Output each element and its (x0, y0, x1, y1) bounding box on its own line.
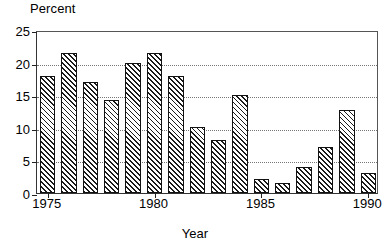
bar-1984 (232, 95, 247, 193)
bar-1988 (318, 147, 333, 193)
plot-area (36, 31, 378, 194)
x-tick-label-1980: 1980 (124, 196, 184, 211)
y-axis-tick-labels: 0510152025 (0, 31, 30, 194)
x-axis-tick-labels: 1975198019851990 (36, 196, 378, 216)
x-tick-label-1990: 1990 (337, 196, 390, 211)
y-tick-label-25: 25 (0, 25, 30, 38)
bar-1981 (168, 76, 183, 193)
y-tick-label-20: 20 (0, 57, 30, 70)
bar-1976 (61, 53, 76, 193)
bar-1982 (190, 127, 205, 194)
bars-layer (37, 32, 377, 193)
x-tick-label-1975: 1975 (17, 196, 77, 211)
bar-1978 (104, 100, 119, 193)
bar-1977 (83, 82, 98, 193)
bar-1985 (254, 179, 269, 193)
x-axis-title: Year (0, 226, 390, 241)
y-tick-label-10: 10 (0, 122, 30, 135)
bar-1987 (296, 167, 311, 193)
bar-1980 (147, 53, 162, 193)
bar-1979 (125, 63, 140, 193)
bar-1986 (275, 183, 290, 193)
bar-1990 (361, 173, 376, 193)
x-tick-label-1985: 1985 (230, 196, 290, 211)
y-tick-label-5: 5 (0, 155, 30, 168)
y-tick-label-15: 15 (0, 90, 30, 103)
bar-1983 (211, 140, 226, 193)
bar-1989 (339, 110, 354, 193)
y-axis-title: Percent (30, 1, 76, 16)
bar-1975 (40, 76, 55, 193)
bar-chart-figure: Percent 0510152025 1975198019851990 Year (0, 0, 390, 248)
